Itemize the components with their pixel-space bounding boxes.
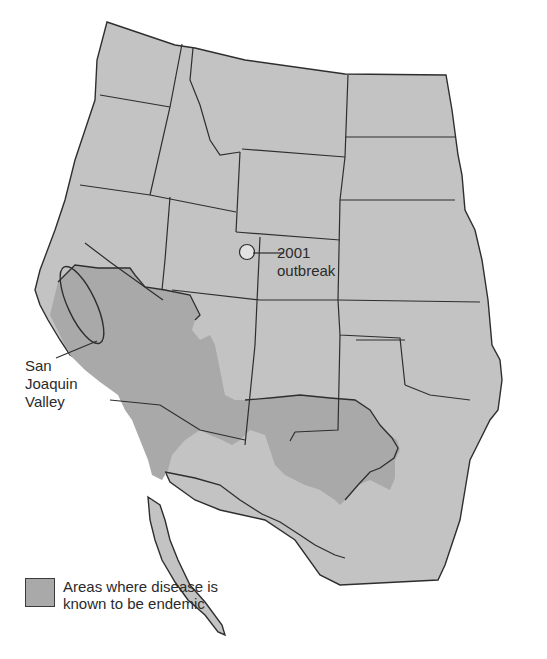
outbreak-label: 2001 outbreak xyxy=(277,244,335,280)
outbreak-marker xyxy=(240,245,255,260)
baja-peninsula xyxy=(148,497,225,635)
endemic-swatch xyxy=(25,578,55,607)
map-legend: Areas where disease is known to be endem… xyxy=(25,578,223,612)
legend-text: Areas where disease is known to be endem… xyxy=(63,578,223,612)
sjv-label-line1: San xyxy=(25,357,78,375)
sjv-label-line2: Joaquin xyxy=(25,375,78,393)
sjv-label-line3: Valley xyxy=(25,393,78,411)
endemic-area-map xyxy=(0,0,547,659)
outbreak-label-line1: 2001 xyxy=(277,244,335,262)
san-joaquin-valley-label: San Joaquin Valley xyxy=(25,357,78,411)
outbreak-label-line2: outbreak xyxy=(277,262,335,280)
